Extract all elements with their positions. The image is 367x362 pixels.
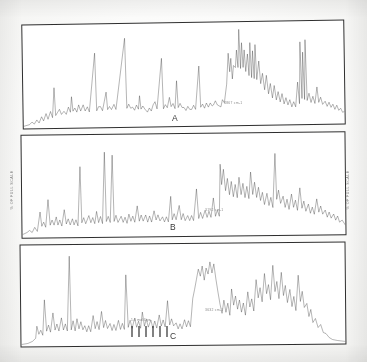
spectrum-panel-b <box>20 131 346 238</box>
panel-annotation-a: 4867 cm-1 <box>224 101 242 105</box>
comb-marker-label: 1.0 mol Dye <box>131 318 151 322</box>
panel-annotation-c: 3632 cm-1 <box>205 308 223 312</box>
panel-annotation-b: 3192 cm-1 <box>205 208 223 212</box>
figure-canvas: A B C 4867 cm-1 3192 cm-1 3632 cm-1 % OF… <box>0 0 367 362</box>
spectrum-trace-b <box>21 132 345 237</box>
comb-marker <box>130 325 172 338</box>
spectrum-trace-c <box>21 242 346 346</box>
spectrum-panel-c <box>20 241 347 347</box>
panel-letter-b: B <box>170 222 176 232</box>
spectrum-trace-a <box>22 21 344 129</box>
y-axis-label-right: % OF FULL SCALE <box>346 154 350 226</box>
y-axis-label-left: % OF FULL SCALE <box>10 154 14 226</box>
spectrum-panel-a <box>21 20 346 130</box>
panel-letter-a: A <box>172 113 178 123</box>
comb-ticks <box>130 325 172 338</box>
